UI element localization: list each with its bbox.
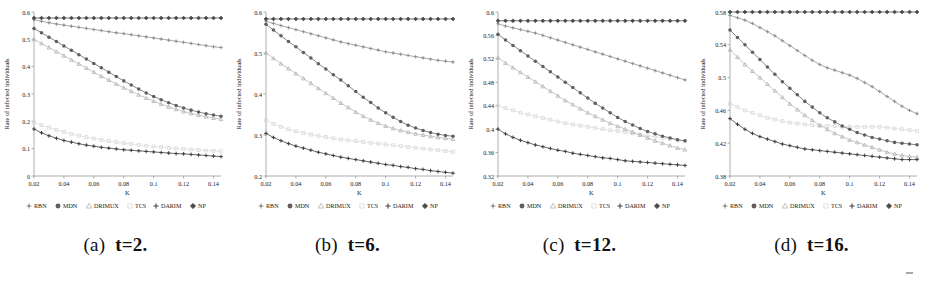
- chart-svg: 0.20.30.40.50.60.020.040.060.080.10.120.…: [232, 0, 463, 232]
- series-rbn: [496, 22, 687, 82]
- x-axis-label: K: [125, 189, 130, 196]
- x-tick-label: 0.1: [614, 180, 622, 187]
- legend-label-darim: DARIM: [161, 203, 182, 209]
- panel-caption: (b) t=6.: [232, 234, 463, 256]
- chart-svg: 00.10.20.30.40.50.60.020.040.060.080.10.…: [0, 0, 231, 232]
- series-mdn: [32, 27, 223, 118]
- y-tick-label: 0.36: [483, 149, 494, 156]
- caption-label: (d): [774, 234, 797, 255]
- legend-label-mdn: MDN: [527, 203, 542, 209]
- legend-label-drimux: DRIMUX: [558, 203, 583, 209]
- series-drimux: [32, 37, 223, 120]
- axes: [498, 12, 685, 176]
- plot-area: 00.10.20.30.40.50.60.020.040.060.080.10.…: [0, 0, 231, 232]
- legend-label-np: NP: [662, 203, 670, 209]
- x-tick-label: 0.06: [88, 180, 99, 187]
- y-axis-label: Rate of infected individuals: [3, 58, 10, 129]
- x-tick-label: 0.08: [814, 180, 825, 187]
- series-mdn: [728, 28, 919, 146]
- y-axis-ticks: 0.20.30.40.50.6: [254, 9, 266, 180]
- legend-label-rbn: RBN: [266, 203, 279, 209]
- x-tick-label: 0.02: [725, 180, 736, 187]
- scan-artifact-mark: [906, 272, 913, 274]
- legend: RBNMDNDRIMUXTCSDARIMNP: [722, 203, 902, 209]
- y-axis-ticks: 0.380.420.460.50.540.58: [715, 9, 730, 180]
- x-tick-label: 0.06: [320, 180, 331, 187]
- x-axis-label: K: [357, 189, 362, 196]
- series-np: [264, 17, 455, 21]
- x-axis-label: K: [589, 189, 594, 196]
- y-tick-label: 0.6: [22, 9, 30, 16]
- legend-label-np: NP: [198, 203, 206, 209]
- caption-value: t=16.: [807, 234, 849, 255]
- x-tick-label: 0.14: [904, 180, 915, 187]
- caption-value: t=2.: [115, 234, 147, 255]
- plot-area: 0.380.420.460.50.540.580.020.040.060.080…: [696, 0, 927, 232]
- x-tick-label: 0.06: [784, 180, 795, 187]
- x-tick-label: 0.06: [552, 180, 563, 187]
- chart-svg: 0.320.360.40.440.480.520.560.60.020.040.…: [464, 0, 695, 232]
- legend-label-drimux: DRIMUX: [326, 203, 351, 209]
- axes: [730, 12, 917, 176]
- legend-label-darim: DARIM: [857, 203, 878, 209]
- y-axis-label: Rate of infected individuals: [699, 58, 706, 129]
- x-tick-label: 0.04: [523, 180, 534, 187]
- chart-panel-a: 00.10.20.30.40.50.60.020.040.060.080.10.…: [0, 0, 231, 288]
- series-drimux: [496, 56, 687, 151]
- y-tick-label: 0.5: [254, 50, 262, 57]
- series-drimux: [264, 51, 455, 140]
- chart-svg: 0.380.420.460.50.540.580.020.040.060.080…: [696, 0, 927, 232]
- series-darim: [496, 127, 687, 167]
- y-tick-label: 0.4: [254, 91, 262, 98]
- series-tcs: [33, 121, 223, 153]
- y-tick-label: 0.42: [715, 140, 726, 147]
- series-tcs: [265, 119, 455, 154]
- x-tick-label: 0.14: [208, 180, 219, 187]
- y-tick-label: 0.6: [254, 9, 262, 16]
- series-drimux: [728, 48, 919, 159]
- x-tick-label: 0.14: [672, 180, 683, 187]
- legend-label-tcs: TCS: [599, 203, 611, 209]
- panel-caption: (a) t=2.: [0, 234, 231, 256]
- legend-label-rbn: RBN: [34, 203, 47, 209]
- y-tick-label: 0.58: [715, 9, 726, 16]
- caption-value: t=12.: [574, 234, 616, 255]
- y-tick-label: 0.44: [483, 102, 494, 109]
- y-tick-label: 0.5: [22, 36, 30, 43]
- x-axis-ticks: 0.020.040.060.080.10.120.14: [261, 176, 451, 187]
- legend: RBNMDNDRIMUXTCSDARIMNP: [26, 203, 206, 209]
- caption-value: t=6.: [348, 234, 380, 255]
- plot-area: 0.320.360.40.440.480.520.560.60.020.040.…: [464, 0, 695, 232]
- x-tick-label: 0.1: [150, 180, 158, 187]
- x-tick-label: 0.12: [178, 180, 189, 187]
- y-axis-ticks: 00.10.20.30.40.50.6: [22, 9, 34, 180]
- legend-label-drimux: DRIMUX: [790, 203, 815, 209]
- legend-label-tcs: TCS: [367, 203, 379, 209]
- panel-caption: (d) t=16.: [696, 234, 927, 256]
- y-tick-label: 0.4: [486, 126, 494, 133]
- figure-panel-group: 00.10.20.30.40.50.60.020.040.060.080.10.…: [0, 0, 927, 288]
- x-tick-label: 0.04: [755, 180, 766, 187]
- y-tick-label: 0.1: [22, 145, 30, 152]
- legend-label-mdn: MDN: [759, 203, 774, 209]
- x-tick-label: 0.1: [846, 180, 854, 187]
- x-tick-label: 0.04: [291, 180, 302, 187]
- x-axis-ticks: 0.020.040.060.080.10.120.14: [29, 176, 219, 187]
- x-tick-label: 0.02: [29, 180, 40, 187]
- y-axis-label: Rate of infected individuals: [235, 58, 242, 129]
- legend-label-darim: DARIM: [393, 203, 414, 209]
- legend-label-mdn: MDN: [63, 203, 78, 209]
- legend-label-drimux: DRIMUX: [94, 203, 119, 209]
- series-darim: [264, 132, 455, 175]
- x-tick-label: 0.12: [410, 180, 421, 187]
- legend-label-tcs: TCS: [135, 203, 147, 209]
- series-tcs: [497, 104, 687, 143]
- y-tick-label: 0.3: [254, 132, 262, 139]
- y-tick-label: 0.2: [22, 118, 30, 125]
- x-tick-label: 0.04: [59, 180, 70, 187]
- caption-label: (c): [543, 234, 565, 255]
- series-np: [496, 19, 687, 23]
- series-darim: [728, 117, 919, 162]
- series-np: [32, 16, 223, 20]
- y-axis-ticks: 0.320.360.40.440.480.520.560.6: [483, 9, 498, 180]
